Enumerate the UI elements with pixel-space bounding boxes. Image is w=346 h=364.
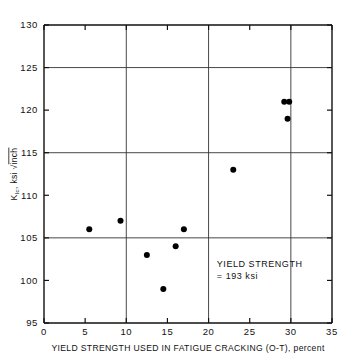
data-point [144, 252, 150, 258]
data-point [181, 226, 187, 232]
scatter-chart: 9510010511011512012513005101520253035YIE… [0, 0, 346, 364]
x-axis-title: YIELD STRENGTH USED IN FATIGUE CRACKING … [51, 343, 325, 353]
y-axis-title-text: KIc, ksi √inch [9, 148, 20, 201]
x-tick-label: 20 [203, 326, 215, 337]
y-tick-label: 95 [26, 317, 38, 328]
axes [44, 25, 332, 323]
x-tick-label: 0 [41, 326, 47, 337]
x-tick-label: 5 [82, 326, 88, 337]
x-tick-label: 35 [326, 326, 338, 337]
data-point [86, 226, 92, 232]
data-point [285, 116, 291, 122]
data-point [160, 286, 166, 292]
x-tick-label: 30 [285, 326, 297, 337]
y-axis-title: KIc, ksi √inch [9, 148, 20, 201]
tick-labels: 9510010511011512012513005101520253035 [20, 19, 338, 337]
y-tick-label: 105 [20, 232, 38, 243]
gridlines [44, 25, 332, 323]
y-tick-label: 130 [20, 19, 38, 30]
axis-titles: YIELD STRENGTH USED IN FATIGUE CRACKING … [51, 343, 325, 353]
data-point [286, 99, 292, 105]
y-tick-label: 120 [20, 104, 38, 115]
data-point [230, 167, 236, 173]
annotation-line-1: YIELD STRENGTH [217, 259, 303, 269]
data-point [173, 243, 179, 249]
annotations: YIELD STRENGTH= 193 ksi [217, 259, 303, 281]
y-tick-label: 115 [21, 147, 38, 158]
figure-container: 9510010511011512012513005101520253035YIE… [0, 0, 346, 364]
y-tick-label: 125 [20, 62, 38, 73]
y-tick-label: 100 [20, 275, 38, 286]
x-tick-label: 10 [120, 326, 132, 337]
x-tick-label: 25 [244, 326, 256, 337]
y-tick-label: 110 [21, 190, 38, 201]
annotation-line-2: = 193 ksi [217, 271, 258, 281]
data-point [118, 218, 124, 224]
x-tick-label: 15 [162, 326, 174, 337]
tick-marks [44, 25, 332, 323]
